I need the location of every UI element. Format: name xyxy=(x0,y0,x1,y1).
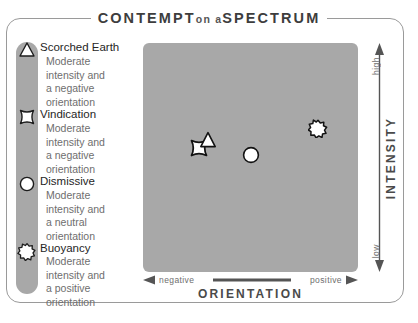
legend-label-buoyancy: Buoyancy xyxy=(40,242,91,255)
y-axis-low-label: low xyxy=(371,244,381,258)
legend-desc-line: a positive xyxy=(46,282,138,296)
legend-desc-line: Moderate xyxy=(46,122,138,136)
starburst-outline-icon xyxy=(17,241,37,261)
legend-desc-scorched-earth: Moderate intensity and a negative orient… xyxy=(46,55,138,109)
legend-desc-line: intensity and xyxy=(46,203,138,217)
x-axis-positive-label: positive xyxy=(310,274,342,286)
legend-item-buoyancy[interactable]: Buoyancy Moderate intensity and a positi… xyxy=(14,241,140,309)
legend-label-scorched-earth: Scorched Earth xyxy=(40,41,119,54)
x-axis-title: ORIENTATION xyxy=(143,287,358,301)
legend-label-vindication: Vindication xyxy=(40,108,96,121)
x-axis: negative positive ORIENTATION xyxy=(143,274,358,302)
data-point-buoyancy[interactable] xyxy=(308,118,328,142)
y-axis-title: INTENSITY xyxy=(384,116,398,198)
legend-item-scorched-earth[interactable]: Scorched Earth Moderate intensity and a … xyxy=(14,40,140,108)
x-axis-negative-label: negative xyxy=(159,274,194,286)
four-point-star-outline-icon xyxy=(17,107,37,127)
legend-desc-line: Moderate xyxy=(46,55,138,69)
data-point-scorched-earth[interactable] xyxy=(198,130,218,154)
y-axis-high-label: high xyxy=(371,57,381,75)
legend-desc-line: Moderate xyxy=(46,255,138,269)
legend-desc-line: a negative xyxy=(46,149,138,163)
legend-desc-line: intensity and xyxy=(46,69,138,83)
legend-label-dismissive: Dismissive xyxy=(40,175,95,188)
legend-item-vindication[interactable]: Vindication Moderate intensity and a neg… xyxy=(14,107,140,175)
legend-item-dismissive[interactable]: Dismissive Moderate intensity and a neut… xyxy=(14,174,140,242)
legend-desc-buoyancy: Moderate intensity and a positive orient… xyxy=(46,255,138,309)
legend-desc-vindication: Moderate intensity and a negative orient… xyxy=(46,122,138,176)
legend-desc-line: a negative xyxy=(46,82,138,96)
legend-desc-line: intensity and xyxy=(46,136,138,150)
data-point-dismissive[interactable] xyxy=(241,145,261,169)
plot-area xyxy=(143,43,358,272)
chart-screenshot: CONTEMPTon aSPECTRUM Scorched Earth Mode… xyxy=(0,0,418,323)
legend-desc-line: a neutral xyxy=(46,216,138,230)
circle-outline-icon xyxy=(17,174,37,194)
y-axis: high low INTENSITY xyxy=(362,43,396,272)
legend-desc-line: orientation xyxy=(46,296,138,310)
legend-desc-dismissive: Moderate intensity and a neutral orienta… xyxy=(46,189,138,243)
legend-desc-line: intensity and xyxy=(46,269,138,283)
legend-desc-line: Moderate xyxy=(46,189,138,203)
triangle-outline-icon xyxy=(17,40,37,60)
legend: Scorched Earth Moderate intensity and a … xyxy=(14,40,140,296)
